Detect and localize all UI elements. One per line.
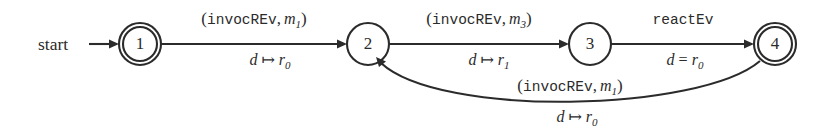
automaton-diagram: start 1 2 3 4 (invocREv,m1) d↦r0 [0, 0, 826, 131]
state-node-1[interactable]: 1 [119, 23, 161, 65]
state-node-2[interactable]: 2 [347, 23, 389, 65]
transition-2-to-3-guard-label: d↦r1 [468, 51, 509, 71]
t2-guard-var: d [468, 51, 477, 68]
start-arrow-head [109, 39, 119, 48]
t3-guard-var: d [667, 51, 676, 68]
t4-guard-var: d [556, 108, 565, 125]
t1-event-name: invocREv [207, 12, 277, 28]
state-1-label: 1 [136, 34, 145, 53]
transition-3-to-4-arrow-head [744, 39, 754, 48]
t3-event-name: reactEv [653, 12, 714, 28]
t3-guard-op: = [679, 51, 688, 68]
transition-3-to-4-guard-label: d=r0 [667, 51, 704, 71]
t4-event-param: m [600, 77, 612, 94]
start-marker: start [38, 34, 119, 54]
transition-1-to-2-event-label: (invocREv,m1) [201, 9, 306, 30]
t4-event-close: ) [617, 76, 623, 95]
state-node-3[interactable]: 3 [569, 23, 611, 65]
transition-1-to-2-guard-label: d↦r0 [249, 51, 291, 71]
start-label: start [38, 34, 68, 54]
t4-guard-op: ↦ [568, 108, 581, 125]
t2-guard-val-sub: 1 [504, 59, 510, 71]
t1-guard-op: ↦ [261, 51, 274, 68]
t1-event-param: m [284, 10, 296, 27]
transition-2-to-3[interactable]: (invocREv,m3) d↦r1 [389, 9, 569, 71]
transition-2-to-3-arrow-head [559, 39, 569, 48]
t2-guard-op: ↦ [480, 51, 493, 68]
transition-1-to-2-arrow-head [337, 39, 347, 48]
t4-event-comma: , [593, 76, 597, 95]
transition-4-to-2-event-label: (invocREv,m1) [517, 76, 622, 97]
state-4-label: 4 [771, 34, 780, 53]
transition-3-to-4[interactable]: reactEv d=r0 [611, 12, 754, 71]
transition-4-to-2-guard-label: d↦r0 [556, 108, 598, 128]
state-node-4[interactable]: 4 [754, 23, 796, 65]
t1-guard-var: d [249, 51, 258, 68]
t4-event-name: invocREv [523, 79, 593, 95]
t2-event-name: invocREv [432, 12, 502, 28]
transition-1-to-2[interactable]: (invocREv,m1) d↦r0 [161, 9, 347, 71]
t1-event-close: ) [301, 9, 307, 28]
state-3-label: 3 [586, 34, 595, 53]
t2-event-param: m [509, 10, 521, 27]
t1-event-comma: , [277, 9, 281, 28]
transition-3-to-4-event-label: reactEv [653, 12, 714, 28]
t2-event-close: ) [526, 9, 532, 28]
transition-2-to-3-event-label: (invocREv,m3) [426, 9, 531, 30]
state-2-label: 2 [364, 34, 373, 53]
t1-guard-val-sub: 0 [285, 59, 291, 71]
t3-guard-val-sub: 0 [698, 59, 704, 71]
t2-event-comma: , [502, 9, 506, 28]
t4-guard-val-sub: 0 [592, 116, 598, 128]
automaton-figure: start 1 2 3 4 (invocREv,m1) d↦r0 [0, 0, 826, 131]
